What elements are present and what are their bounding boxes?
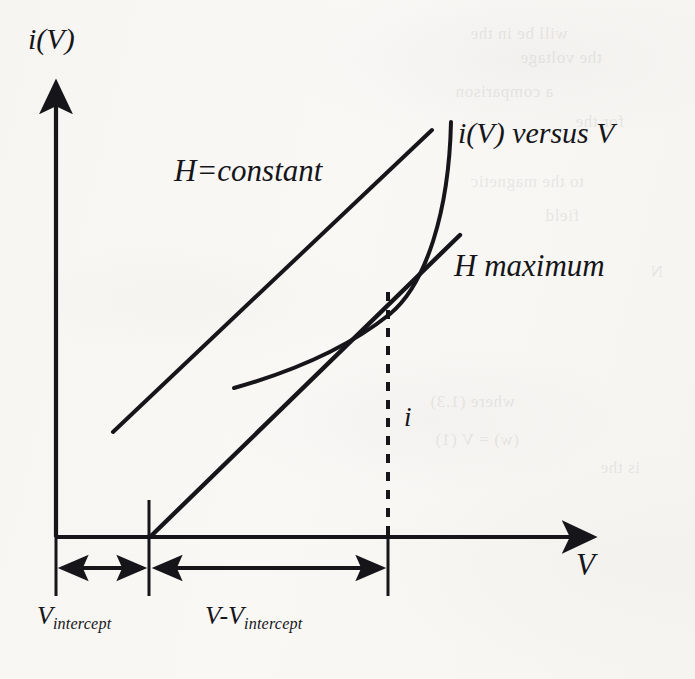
h-constant-label: H=constant (174, 155, 322, 186)
dimension-label-v-intercept-sub: intercept (53, 615, 111, 632)
figure-canvas: will be in the the voltage a comparison … (0, 0, 695, 679)
h-maximum-line (150, 235, 460, 537)
dimension-label-v-minus-v-intercept-sub: intercept (244, 615, 302, 632)
current-label: i (404, 404, 412, 431)
dimension-label-v-minus-v-intercept: V-Vintercept (205, 603, 302, 629)
h-maximum-label: H maximum (454, 250, 605, 281)
y-axis-label: i(V) (28, 24, 75, 54)
dimension-label-v-minus-v-intercept-main: V-V (205, 601, 244, 630)
dimension-label-v-intercept-main: V (37, 601, 53, 630)
iv-curve-label: i(V) versus V (458, 118, 615, 148)
x-axis-label: V (576, 549, 595, 580)
dimension-label-v-intercept: Vintercept (37, 603, 111, 629)
